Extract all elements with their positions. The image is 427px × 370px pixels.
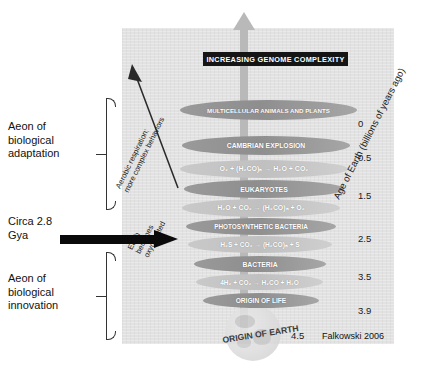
axis-tick-label: 1.5	[358, 190, 371, 201]
funnel-band-label: PHOTOSYNTHETIC BACTERIA	[214, 223, 308, 230]
origin-of-earth-value: 4.5	[291, 330, 304, 341]
bracket-spine	[106, 252, 107, 340]
funnel-band-label: MULTICELLULAR ANIMALS AND PLANTS	[207, 106, 330, 113]
funnel-band: ORIGIN OF LIFE	[203, 293, 319, 308]
funnel-band: 4H₂ + CO₂ → H₂CO + H₂O	[196, 274, 323, 290]
title-banner: INCREASING GENOME COMPLEXITY	[203, 52, 348, 66]
bracket-bottom	[106, 331, 116, 340]
bracket-innovation	[98, 252, 120, 340]
label-circa-gya: Circa 2.8 Gya	[8, 215, 52, 242]
bracket-top	[106, 98, 116, 107]
funnel-band: H₂O + CO₂ → (H₂CO)ₙ + O₂	[182, 199, 340, 217]
axis-tick-label: 0	[358, 118, 363, 129]
figure-canvas: INCREASING GENOME COMPLEXITY MULTICELLUL…	[0, 0, 427, 370]
funnel-band: PHOTOSYNTHETIC BACTERIA	[186, 218, 336, 235]
funnel-band: EUKARYOTES	[184, 180, 344, 198]
funnel-band-label: EUKARYOTES	[240, 185, 288, 192]
axis-tick-label: 3.5	[358, 271, 371, 282]
credit-text: Falkowski 2006	[322, 331, 384, 341]
funnel-band-label: BACTERIA	[242, 260, 277, 267]
bracket-adaptation	[98, 98, 120, 210]
axis-tick-label: 3.9	[358, 305, 371, 316]
funnel-band-label: O₂ + (H₂CO)ₙ → H₂O + CO₂	[220, 165, 309, 173]
label-aeon-adaptation: Aeon of biological adaptation	[8, 120, 59, 161]
funnel-band-label: H₂S + CO₂ → (H₂CO)ₙ + S	[220, 240, 300, 248]
funnel-band: CAMBRIAN EXPLOSION	[182, 136, 350, 155]
globe-landmass	[235, 315, 255, 328]
funnel-band-label: CAMBRIAN EXPLOSION	[227, 142, 306, 149]
funnel-band-label: ORIGIN OF LIFE	[236, 297, 287, 304]
circa-28-gya-arrow	[60, 230, 178, 248]
funnel-band: H₂S + CO₂ → (H₂CO)ₙ + S	[188, 236, 332, 253]
bracket-bottom	[106, 201, 116, 210]
funnel-band: BACTERIA	[194, 256, 326, 272]
black-arrow-bar	[60, 235, 155, 244]
bracket-top	[106, 252, 116, 261]
bracket-tick	[96, 296, 106, 297]
axis-tick-label: 2.5	[358, 233, 371, 244]
funnel-band: O₂ + (H₂CO)ₙ → H₂O + CO₂	[180, 160, 348, 178]
black-arrow-tip	[154, 230, 178, 248]
bracket-spine	[106, 98, 107, 210]
bracket-tick	[96, 154, 106, 155]
label-aeon-innovation: Aeon of biological innovation	[8, 272, 58, 313]
funnel-band-label: H₂O + CO₂ → (H₂CO)ₙ + O₂	[217, 204, 305, 212]
funnel-band: MULTICELLULAR ANIMALS AND PLANTS	[180, 100, 357, 120]
funnel-band-label: 4H₂ + CO₂ → H₂CO + H₂O	[220, 278, 299, 285]
